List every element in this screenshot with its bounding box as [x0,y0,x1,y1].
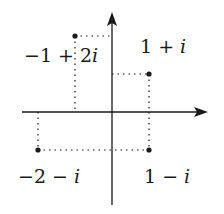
labels: −1 + 2i 1 + i −2 − i 1 − i [18,35,190,187]
point-p3 [35,147,40,152]
point-p1 [72,33,77,38]
label-p2: 1 + i [140,35,186,57]
label-p4: 1 − i [144,165,190,187]
point-p2 [146,71,151,76]
label-p1: −1 + 2i [24,44,98,66]
complex-plane-diagram: −1 + 2i 1 + i −2 − i 1 − i [0,0,224,214]
point-p4 [146,147,151,152]
label-p3: −2 − i [18,165,80,187]
